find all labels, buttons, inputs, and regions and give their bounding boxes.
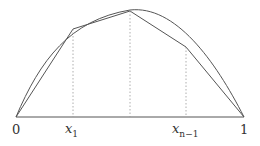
label-xn1-sub: n−1	[179, 129, 198, 139]
label-x1: x1	[65, 121, 78, 139]
diagram-canvas	[0, 0, 260, 146]
label-x1-sub: 1	[72, 129, 78, 139]
label-zero: 0	[12, 122, 20, 137]
label-one: 1	[240, 122, 248, 137]
label-xn1: xn−1	[172, 121, 198, 139]
